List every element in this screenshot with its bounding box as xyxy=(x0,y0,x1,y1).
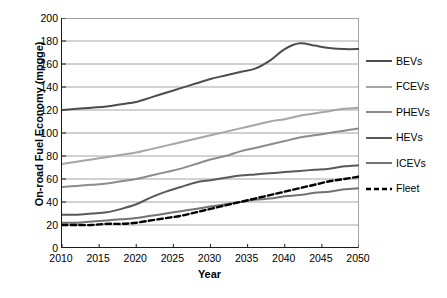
legend-label: FCEVs xyxy=(392,81,429,92)
chart-figure: On-road Fuel Economy (mpgge) 02040608010… xyxy=(0,0,447,298)
legend-swatch-icon xyxy=(366,133,392,143)
x-axis-title: Year xyxy=(61,268,358,280)
y-tick-label: 40 xyxy=(26,197,58,207)
y-tick-label: 20 xyxy=(26,220,58,230)
x-tick-label: 2050 xyxy=(336,252,380,264)
y-tick-label: 120 xyxy=(26,105,58,115)
y-tick-label: 140 xyxy=(26,82,58,92)
y-tick-label: 80 xyxy=(26,151,58,161)
legend-item-fcevs[interactable]: FCEVs xyxy=(366,80,429,94)
y-tick-label: 60 xyxy=(26,174,58,184)
legend-item-phevs[interactable]: PHEVs xyxy=(366,105,430,119)
legend-label: ICEVs xyxy=(392,158,426,169)
legend-label: BEVs xyxy=(392,56,422,67)
legend-swatch-icon xyxy=(366,107,392,117)
legend-label: HEVs xyxy=(392,132,423,143)
plot-area xyxy=(61,18,358,248)
legend-swatch-icon xyxy=(366,184,392,194)
legend-swatch-icon xyxy=(366,82,392,92)
legend-swatch-icon xyxy=(366,56,392,66)
y-tick-label: 160 xyxy=(26,59,58,69)
series-line-bevs xyxy=(62,43,359,110)
legend-item-bevs[interactable]: BEVs xyxy=(366,54,422,68)
y-tick-label: 100 xyxy=(26,128,58,138)
y-tick-label: 200 xyxy=(26,13,58,23)
x-axis-tick-labels: 201020152020202520302035204020452050 xyxy=(0,252,447,268)
legend-item-fleet[interactable]: Fleet xyxy=(366,182,419,196)
series-line-icevs xyxy=(62,188,359,223)
legend-label: PHEVs xyxy=(392,107,430,118)
legend-item-hevs[interactable]: HEVs xyxy=(366,131,423,145)
legend-swatch-icon xyxy=(366,158,392,168)
y-tick-label: 180 xyxy=(26,36,58,46)
legend-label: Fleet xyxy=(392,183,419,194)
plot-svg xyxy=(62,18,359,248)
legend-item-icevs[interactable]: ICEVs xyxy=(366,156,426,170)
